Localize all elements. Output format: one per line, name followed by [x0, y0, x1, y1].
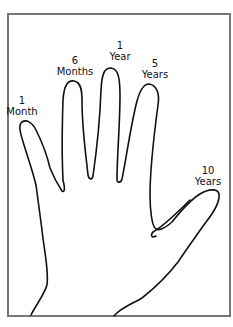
label-thumb-number: 10 — [195, 165, 221, 176]
label-ring: 6 Months — [57, 55, 94, 77]
label-pinky-number: 1 — [6, 95, 37, 106]
label-middle-unit: Year — [109, 51, 130, 62]
label-thumb-unit: Years — [195, 176, 221, 187]
label-ring-unit: Months — [57, 66, 94, 77]
label-index-number: 5 — [142, 58, 168, 69]
label-pinky-unit: Month — [6, 106, 37, 117]
label-pinky: 1 Month — [6, 95, 37, 117]
label-thumb: 10 Years — [195, 165, 221, 187]
label-middle: 1 Year — [109, 40, 130, 62]
label-ring-number: 6 — [57, 55, 94, 66]
label-index-unit: Years — [142, 69, 168, 80]
label-index: 5 Years — [142, 58, 168, 80]
label-middle-number: 1 — [109, 40, 130, 51]
